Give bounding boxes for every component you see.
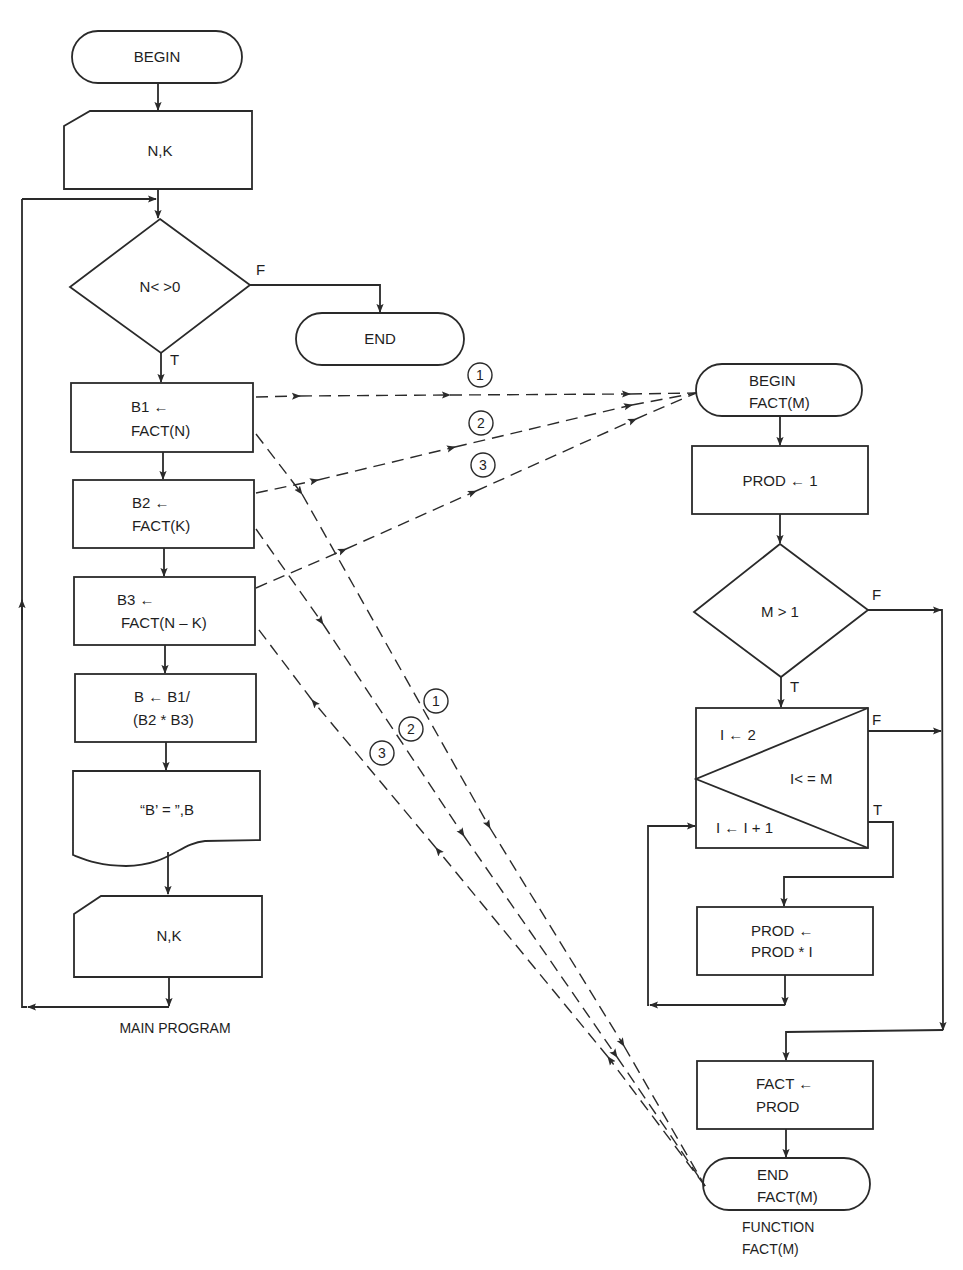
function-begin-line-1: BEGIN — [749, 372, 796, 389]
prod-mult-line-2: PROD * I — [751, 943, 813, 960]
return-marker-1: 1 — [424, 689, 448, 713]
return-1-arrow-a — [256, 434, 302, 494]
return-lines: 1 2 3 — [256, 434, 705, 1186]
arrow-decision-to-end — [250, 285, 380, 312]
svg-text:3: 3 — [378, 745, 386, 761]
b3-line-2: FACT(N – K) — [121, 614, 207, 631]
main-program-caption: MAIN PROGRAM — [119, 1020, 230, 1036]
decision-label: N< >0 — [140, 278, 181, 295]
main-program: BEGIN N,K N< >0 F T END B1 ← FACT(N) — [22, 31, 464, 1036]
input-card-nk-2: N,K — [74, 896, 262, 977]
process-b2: B2 ← FACT(K) — [73, 480, 254, 548]
decision-true-label: T — [170, 351, 179, 368]
begin-label: BEGIN — [134, 48, 181, 65]
decision-false-label: F — [256, 261, 265, 278]
return-3-arrow-a — [608, 1057, 705, 1186]
loop-test-label: I< = M — [790, 770, 833, 787]
decision-m-greater-1: M > 1 — [694, 544, 868, 677]
fact-assign-line-1: FACT ← — [756, 1075, 813, 1092]
decision-n-not-zero: N< >0 — [70, 219, 250, 353]
process-b3: B3 ← FACT(N – K) — [74, 577, 255, 645]
loop-box: I ← 2 I< = M I ← I + 1 — [696, 708, 868, 848]
return-1-end — [624, 1046, 705, 1186]
flowchart-diagram: BEGIN N,K N< >0 F T END B1 ← FACT(N) — [0, 0, 963, 1270]
end-label: END — [364, 330, 396, 347]
call-2-arrow-a — [256, 480, 318, 493]
b3-line-1: B3 ← — [117, 591, 155, 608]
function-begin-terminator: BEGIN FACT(M) — [696, 364, 862, 416]
b1-line-2: FACT(N) — [131, 422, 190, 439]
return-marker-2: 2 — [399, 717, 423, 741]
function-end-line-2: FACT(M) — [757, 1188, 818, 1205]
begin-terminator: BEGIN — [72, 31, 242, 83]
return-2-arrow-c — [464, 836, 617, 1057]
b2-line-2: FACT(K) — [132, 517, 190, 534]
loop-true-label: T — [873, 801, 882, 818]
return-2-arrow-b — [323, 624, 464, 836]
process-prod-init: PROD ← 1 — [692, 446, 868, 514]
m-decision-false-label: F — [872, 586, 881, 603]
svg-text:2: 2 — [407, 721, 415, 737]
call-marker-1: 1 — [468, 363, 492, 387]
call-1-end — [630, 393, 696, 394]
call-3-end — [636, 393, 696, 419]
b1-line-1: B1 ← — [131, 398, 169, 415]
loop-false-label: F — [872, 711, 881, 728]
call-2-end — [632, 393, 696, 405]
loop-init-label: I ← 2 — [720, 726, 756, 743]
return-1-arrow-b — [302, 494, 490, 828]
function-fact: BEGIN FACT(M) PROD ← 1 M > 1 F T I ← 2 I… — [648, 364, 943, 1257]
prod-mult-line-1: PROD ← — [751, 922, 814, 939]
function-begin-line-2: FACT(M) — [749, 394, 810, 411]
call-3-arrow-b — [346, 491, 476, 549]
return-3-end — [256, 626, 312, 700]
fact-assign-line-2: PROD — [756, 1098, 800, 1115]
call-3-arrow-a — [256, 549, 346, 588]
return-2-end — [617, 1057, 705, 1186]
call-2-arrow-b — [318, 447, 455, 480]
svg-text:1: 1 — [476, 367, 484, 383]
arrow-exit-to-assign — [786, 1030, 943, 1060]
process-b-calc: B ← B1/ (B2 * B3) — [75, 674, 256, 742]
call-marker-3: 3 — [471, 453, 495, 477]
svg-text:2: 2 — [477, 415, 485, 431]
process-prod-multiply: PROD ← PROD * I — [697, 907, 873, 975]
m-decision-label: M > 1 — [761, 603, 799, 620]
arrow-body-loop-back — [648, 826, 695, 1005]
call-1-arrow-a — [256, 396, 300, 397]
loop-increment-label: I ← I + 1 — [716, 819, 773, 836]
call-lines: 1 2 3 — [256, 363, 696, 588]
call-3-arrow-c — [476, 419, 636, 491]
process-fact-assign: FACT ← PROD — [697, 1061, 873, 1129]
return-marker-3: 3 — [370, 741, 394, 765]
call-marker-2: 2 — [469, 411, 493, 435]
function-end-terminator: END FACT(M) — [703, 1158, 870, 1210]
return-2-arrow-a — [256, 529, 323, 624]
input-card-label: N,K — [147, 142, 172, 159]
output-label: “B’ = ”,B — [140, 801, 194, 818]
input-card-nk: N,K — [64, 111, 252, 189]
end-terminator: END — [296, 313, 464, 365]
function-caption-line-2: FACT(M) — [742, 1241, 799, 1257]
m-decision-true-label: T — [790, 678, 799, 695]
function-caption-line-1: FUNCTION — [742, 1219, 814, 1235]
input-card-2-label: N,K — [156, 927, 181, 944]
exit-bus-vertical — [941, 610, 943, 1030]
prod-init-label: PROD ← 1 — [742, 472, 817, 489]
b2-line-1: B2 ← — [132, 494, 170, 511]
call-1-arrow-b — [300, 395, 450, 396]
function-end-line-1: END — [757, 1166, 789, 1183]
output-document: “B’ = ”,B — [73, 771, 260, 866]
svg-text:3: 3 — [479, 457, 487, 473]
svg-text:1: 1 — [432, 693, 440, 709]
bcalc-line-1: B ← B1/ — [134, 688, 191, 705]
call-1-arrow-c — [450, 394, 630, 395]
bcalc-line-2: (B2 * B3) — [133, 711, 194, 728]
process-b1: B1 ← FACT(N) — [71, 383, 253, 452]
